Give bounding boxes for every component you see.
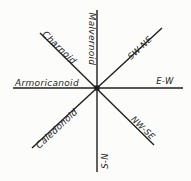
malvernoid-trend-label: Malvernoid bbox=[87, 13, 96, 66]
east-west-direction-label: E-W bbox=[156, 77, 174, 86]
trend-directions-diagram: Malvernoid S-N Armoricanoid E-W Charnoid… bbox=[0, 0, 191, 181]
armoricanoid-trend-label: Armoricanoid bbox=[15, 79, 79, 88]
south-north-direction-label: S-N bbox=[101, 153, 110, 169]
center-marker bbox=[95, 86, 100, 91]
